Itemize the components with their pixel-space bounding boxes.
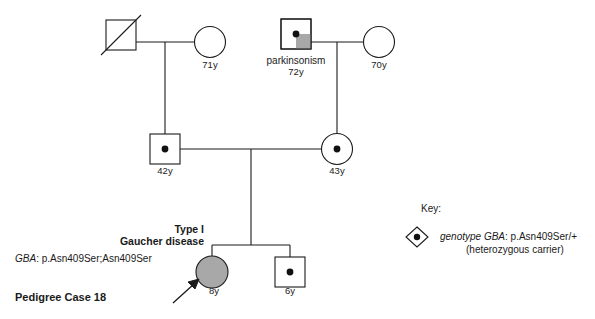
pedigree-chart bbox=[0, 0, 595, 319]
figure-caption: Pedigree Case 18 bbox=[15, 291, 106, 303]
age-label-grandfather-parkinsonism: 72y bbox=[288, 67, 303, 78]
key-title: Key: bbox=[421, 203, 441, 214]
carrier-dot-icon bbox=[162, 146, 169, 153]
symbol-brother-carrier[interactable] bbox=[275, 257, 305, 287]
carrier-dot-icon bbox=[334, 146, 341, 153]
symbol-father-carrier[interactable] bbox=[150, 134, 180, 164]
symbol-deceased-grandfather[interactable] bbox=[101, 15, 141, 55]
age-label-proband: 8y bbox=[209, 286, 219, 297]
symbol-proband-affected[interactable] bbox=[196, 256, 228, 288]
circle-symbol bbox=[195, 27, 226, 58]
circle-symbol bbox=[364, 27, 395, 58]
proband-genotype-label: GBA: p.Asn409Ser;Asn409Ser bbox=[15, 253, 152, 264]
age-label-brother-carrier: 6y bbox=[285, 286, 295, 297]
key-symbol-diamond-with-dot bbox=[406, 227, 428, 247]
carrier-dot-icon bbox=[293, 31, 300, 38]
age-label-mother-carrier: 43y bbox=[329, 166, 344, 177]
diagnosis-label-line1: Type I bbox=[174, 224, 204, 236]
symbol-grandfather-parkinsonism[interactable] bbox=[281, 19, 311, 49]
diagnosis-label-line2: Gaucher disease bbox=[120, 236, 204, 248]
key-genotype-gene-phrase: genotype GBA bbox=[440, 231, 505, 242]
proband-arrow-icon bbox=[173, 279, 199, 303]
symbol-grandmother-left[interactable] bbox=[195, 27, 226, 58]
genotype-variant-text: : p.Asn409Ser;Asn409Ser bbox=[36, 253, 152, 264]
age-label-grandmother-right: 70y bbox=[371, 60, 386, 71]
symbol-mother-carrier[interactable] bbox=[322, 134, 353, 165]
circle-symbol bbox=[196, 256, 228, 288]
key-entry-carrier-line1: genotype GBA: p.Asn409Ser/+ bbox=[440, 231, 577, 242]
condition-label-parkinsonism: parkinsonism bbox=[267, 55, 326, 66]
symbol-grandmother-right[interactable] bbox=[364, 27, 395, 58]
gene-name-gba: GBA bbox=[15, 253, 36, 264]
key-genotype-variant-text: : p.Asn409Ser/+ bbox=[505, 231, 577, 242]
age-label-grandmother-left: 71y bbox=[202, 60, 217, 71]
carrier-dot-icon bbox=[287, 269, 294, 276]
key-entry-carrier-line2: (heterozygous carrier) bbox=[466, 244, 564, 255]
generation-1-connectors bbox=[136, 42, 364, 134]
carrier-dot-icon bbox=[414, 234, 420, 240]
age-label-father-carrier: 42y bbox=[157, 166, 172, 177]
